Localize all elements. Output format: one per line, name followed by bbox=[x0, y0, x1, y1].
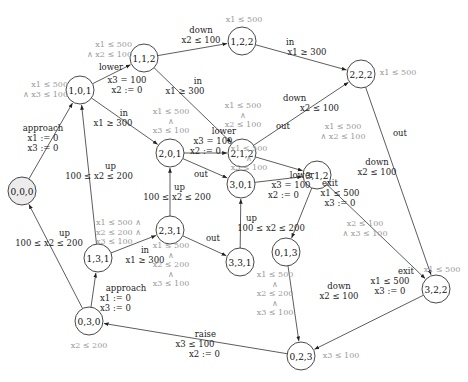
state-node: 0,1,3 bbox=[272, 238, 300, 266]
svg-text:1,0,1: 1,0,1 bbox=[69, 86, 92, 96]
state-node: 1,0,1 bbox=[66, 76, 94, 104]
invariant-301: x1 ≤ 500 ∧ x3 ≤ 100 bbox=[226, 144, 272, 173]
edge-label-exit-312: exit x1 ≤ 500 x3 := 0 bbox=[318, 178, 362, 208]
svg-text:0,2,3: 0,2,3 bbox=[290, 352, 313, 362]
edge-label-lower-101-guard: x3 = 100 x2 := 0 bbox=[104, 75, 150, 95]
edge-label-down-212: down x2 ≤ 100 bbox=[283, 93, 339, 113]
invariant-322: x1 ≤ 500 bbox=[418, 265, 466, 275]
edge-label-out-231: out bbox=[200, 233, 226, 243]
edge-label-lower-301: lower x3 = 100 x2 := 0 bbox=[268, 170, 314, 200]
invariant-013: x2 ≤ 100 ∧ x3 ≤ 100 bbox=[340, 219, 390, 238]
state-node: 2,0,1 bbox=[156, 139, 184, 167]
nodes: 0,0,01,0,11,1,21,2,22,2,22,1,22,0,13,0,1… bbox=[8, 27, 450, 370]
edge-up bbox=[29, 204, 83, 308]
svg-text:1,2,2: 1,2,2 bbox=[231, 37, 254, 47]
edge-label-lower-101: lower bbox=[88, 62, 134, 72]
invariant-222: x1 ≤ 500 bbox=[376, 68, 420, 78]
edge-label-out-212: out bbox=[268, 121, 298, 131]
edge-label-out-222: out bbox=[388, 128, 412, 138]
state-node: 1,3,1 bbox=[84, 244, 112, 272]
svg-text:1,1,2: 1,1,2 bbox=[133, 54, 156, 64]
svg-text:2,2,2: 2,2,2 bbox=[350, 70, 373, 80]
edge-label-up-231: up 100 ≤ x2 ≤ 200 bbox=[142, 182, 212, 202]
state-node: 0,0,0 bbox=[8, 177, 36, 205]
svg-text:0,1,3: 0,1,3 bbox=[275, 248, 298, 258]
edge-label-approach-0: approach x1 := 0 x3 := 0 bbox=[18, 123, 68, 153]
state-node: 3,2,2 bbox=[422, 275, 450, 303]
edge-label-in-101: in x1 ≥ 300 bbox=[88, 108, 138, 128]
edge-label-up-331: up 100 ≤ x2 ≤ 200 bbox=[236, 213, 306, 233]
invariant-231: x1 ≤ 500 ∧ x2 ≤ 200 ∧ x3 ≤ 100 bbox=[148, 241, 194, 289]
svg-text:3,3,1: 3,3,1 bbox=[229, 258, 252, 268]
invariant-331: x1 ≤ 500 ∧ x2 ≤ 200 ∧ x3 ≤ 100 bbox=[252, 270, 298, 318]
state-node: 0,2,3 bbox=[287, 342, 315, 370]
edge-label-out-201: out bbox=[186, 169, 216, 179]
invariant-212: x1 ≤ 500 ∧ x2 ≤ 100 bbox=[220, 101, 266, 130]
edge-approach bbox=[91, 273, 96, 307]
edge-label-down-112: down x2 ≤ 100 bbox=[176, 25, 226, 45]
edge-label-up-131: up 100 ≤ x2 ≤ 200 bbox=[64, 161, 134, 181]
state-graph: 0,0,01,0,11,1,21,2,22,2,22,1,22,0,13,0,1… bbox=[0, 0, 468, 382]
edge-down bbox=[158, 44, 227, 56]
invariant-023: x3 ≤ 100 bbox=[318, 351, 364, 361]
invariant-122: x1 ≤ 500 bbox=[222, 15, 266, 25]
state-node: 2,2,2 bbox=[347, 60, 375, 88]
edge-label-in-122: in x1 ≥ 300 bbox=[282, 37, 332, 57]
svg-text:0,3,0: 0,3,0 bbox=[78, 317, 101, 327]
edge-label-down-312: down x2 ≤ 100 bbox=[352, 157, 402, 177]
edge-label-exit-322: exit x1 ≤ 500 x3 := 0 bbox=[366, 266, 414, 296]
svg-text:3,2,2: 3,2,2 bbox=[425, 285, 448, 295]
edge-label-up-030: up 100 ≤ x2 ≤ 200 bbox=[14, 228, 84, 248]
state-node: 1,2,2 bbox=[228, 27, 256, 55]
svg-text:2,3,1: 2,3,1 bbox=[159, 226, 182, 236]
state-node: 1,1,2 bbox=[130, 44, 158, 72]
state-node: 3,3,1 bbox=[226, 248, 254, 276]
svg-text:1,3,1: 1,3,1 bbox=[87, 254, 110, 264]
svg-text:0,0,0: 0,0,0 bbox=[11, 187, 34, 197]
edge-label-raise-023: raise x3 ≤ 100 x2 := 0 bbox=[170, 329, 220, 359]
edge-label-down-013: down x2 ≤ 100 bbox=[314, 281, 364, 301]
edge-label-approach-030: approach x1 := 0 x3 := 0 bbox=[100, 283, 152, 313]
edge-label-in-112: in x1 ≥ 300 bbox=[160, 76, 210, 96]
state-node: 3,0,1 bbox=[227, 170, 255, 198]
edge-exit bbox=[314, 295, 423, 349]
svg-text:2,0,1: 2,0,1 bbox=[159, 149, 182, 159]
state-node: 0,3,0 bbox=[75, 307, 103, 335]
invariant-201: x1 ≤ 500 ∧ x3 ≤ 100 bbox=[148, 107, 194, 136]
state-node: 2,3,1 bbox=[156, 216, 184, 244]
invariant-112: x1 ≤ 500 ∧ x2 ≤ 100 bbox=[86, 40, 132, 59]
invariant-030: x2 ≤ 200 bbox=[66, 341, 112, 351]
svg-text:3,0,1: 3,0,1 bbox=[230, 180, 253, 190]
invariant-101: x1 ≤ 500 ∧ x3 ≤ 100 bbox=[22, 80, 68, 99]
invariant-312: x1 ≤ 500 ∧ x2 ≤ 100 bbox=[318, 122, 368, 141]
invariant-131: x1 ≤ 500 ∧ x2 ≤ 200 ∧ x3 ≤ 100 bbox=[96, 218, 148, 247]
edge-out bbox=[366, 87, 431, 275]
